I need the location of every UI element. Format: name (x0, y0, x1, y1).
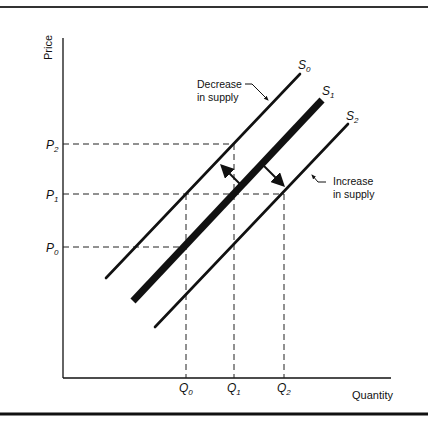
decrease-in-supply-annotation: Decrease in supply (197, 78, 242, 103)
svg-text:P2: P2 (46, 138, 59, 154)
svg-text:P1: P1 (46, 188, 58, 204)
price-tick-p1: P1 (46, 188, 58, 204)
svg-text:in supply: in supply (333, 188, 375, 200)
increase-leader-line (312, 175, 326, 182)
curve-label-s2: S2 (346, 109, 359, 125)
svg-text:Increase: Increase (333, 175, 373, 187)
supply-curve-s2 (155, 124, 348, 327)
price-tick-p0: P0 (46, 241, 59, 257)
y-axis-label: Price (42, 35, 54, 60)
svg-text:Decrease: Decrease (197, 78, 242, 90)
price-guides (63, 144, 284, 247)
supply-curve-s0 (106, 74, 300, 278)
price-tick-p2: P2 (46, 138, 59, 154)
quantity-tick-q0: Q0 (179, 381, 193, 397)
supply-curve-s1 (133, 100, 322, 301)
svg-text:Q2: Q2 (277, 381, 291, 397)
decrease-leader-line (245, 84, 268, 100)
svg-text:S2: S2 (346, 109, 359, 125)
svg-text:Q0: Q0 (179, 381, 193, 397)
curve-label-s1: S1 (322, 84, 334, 100)
svg-text:S1: S1 (322, 84, 334, 100)
curve-label-s0: S0 (298, 58, 311, 74)
increase-in-supply-annotation: Increase in supply (333, 175, 375, 200)
supply-shift-diagram: Price Quantity P2 P1 P0 Q0 Q1 Q2 S0 S1 S… (0, 0, 428, 428)
svg-text:Q1: Q1 (227, 381, 241, 397)
quantity-tick-q1: Q1 (227, 381, 241, 397)
svg-text:in supply: in supply (197, 91, 239, 103)
svg-text:S0: S0 (298, 58, 311, 74)
x-axis-label: Quantity (352, 389, 393, 401)
quantity-tick-q2: Q2 (277, 381, 291, 397)
svg-text:P0: P0 (46, 241, 59, 257)
decrease-shift-arrow (222, 166, 240, 184)
increase-shift-arrow (264, 166, 283, 185)
